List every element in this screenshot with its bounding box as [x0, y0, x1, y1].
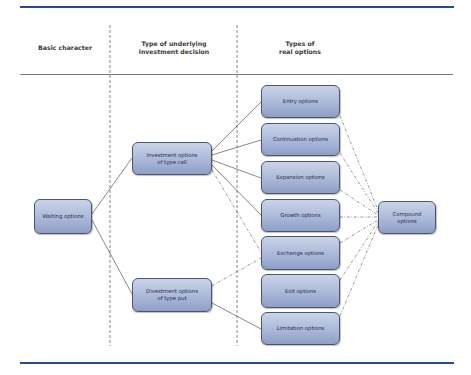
- edge-limitation-compound: [340, 225, 378, 316]
- edge-investment-continuation: [212, 140, 261, 155]
- edge-divestment-limitation: [212, 303, 261, 329]
- connector-layer: [0, 0, 471, 375]
- edge-waiting-investment: [92, 158, 132, 214]
- node-label: Divestment options: [146, 288, 198, 295]
- edge-entry-compound: [340, 116, 378, 210]
- edge-continuation-compound: [340, 153, 378, 213]
- node-label: Waiting options: [42, 213, 83, 220]
- edge-exchange-compound: [340, 220, 378, 243]
- edge-exit-compound: [340, 222, 378, 280]
- edge-investment-expansion: [212, 160, 261, 178]
- node-label: Growth options: [280, 212, 320, 219]
- node-label: options: [397, 218, 417, 225]
- node-label: of type call: [157, 159, 186, 166]
- node-label: Exchange options: [277, 250, 324, 257]
- edge-expansion-compound: [340, 190, 378, 215]
- node-divestment-options: Divestment options of type put: [132, 278, 212, 312]
- node-exit-options: Exit options: [261, 274, 340, 308]
- node-label: Expansion options: [276, 174, 324, 181]
- edge-waiting-divestment: [92, 220, 132, 294]
- node-label: Investment options: [146, 152, 197, 159]
- node-growth-options: Growth options: [261, 199, 340, 232]
- edge-investment-entry: [212, 102, 261, 151]
- node-continuation-options: Continuation options: [261, 123, 340, 156]
- node-label: Compound: [393, 211, 422, 218]
- node-exchange-options: Exchange options: [261, 236, 340, 270]
- edge-divestment-exchange: [212, 258, 261, 286]
- node-label: of type put: [157, 295, 186, 302]
- node-waiting-options: Waiting options: [34, 199, 92, 234]
- node-expansion-options: Expansion options: [261, 161, 340, 194]
- edge-investment-growth: [212, 165, 261, 215]
- node-label: Entry options: [283, 98, 318, 105]
- node-entry-options: Entry options: [261, 85, 340, 118]
- edge-investment-exchange: [212, 170, 261, 252]
- node-investment-options: Investment options of type call: [132, 142, 212, 175]
- node-label: Continuation options: [273, 136, 328, 143]
- node-label: Limitation options: [277, 325, 325, 332]
- node-compound-options: Compound options: [378, 201, 436, 234]
- node-label: Exit options: [285, 288, 316, 295]
- node-limitation-options: Limitation options: [261, 312, 340, 345]
